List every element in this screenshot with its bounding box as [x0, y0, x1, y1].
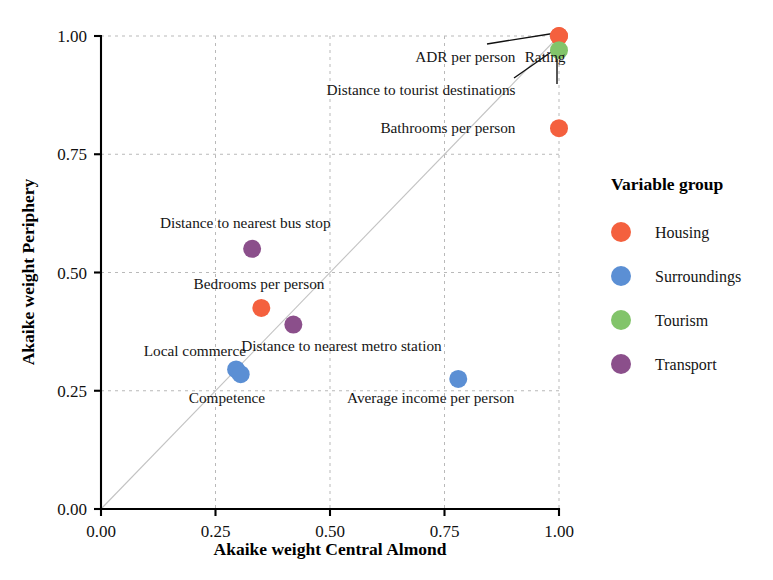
y-tick-label: 1.00	[57, 27, 87, 46]
legend-swatch-housing[interactable]	[611, 222, 631, 242]
legend-swatch-transport[interactable]	[611, 354, 631, 374]
legend-swatch-surroundings[interactable]	[611, 266, 631, 286]
legend: Variable group HousingSurroundingsTouris…	[611, 174, 741, 374]
scatter-plot-figure: 0.000.250.500.751.00 0.000.250.500.751.0…	[0, 0, 773, 580]
data-point-average-income-per-person	[449, 370, 467, 388]
legend-swatch-tourism[interactable]	[611, 310, 631, 330]
point-label-distance-to-nearest-bus-stop: Distance to nearest bus stop	[160, 214, 331, 231]
legend-entries: HousingSurroundingsTourismTransport	[611, 222, 741, 374]
point-label-average-income-per-person: Average income per person	[347, 389, 515, 406]
data-point-bedrooms-per-person	[252, 299, 270, 317]
y-tick-labels: 0.000.250.500.751.00	[57, 27, 87, 519]
data-point-distance-to-nearest-metro-station	[284, 316, 302, 334]
point-label-local-commerce: Local commerce	[144, 342, 247, 359]
data-point-competence	[232, 365, 250, 383]
x-tick-label: 1.00	[544, 522, 574, 541]
y-tick-label: 0.00	[57, 500, 87, 519]
leader-line-adr-per-person	[487, 33, 556, 44]
y-tick-label: 0.50	[57, 264, 87, 283]
point-label-bedrooms-per-person: Bedrooms per person	[194, 275, 325, 292]
legend-label-tourism[interactable]: Tourism	[655, 312, 709, 329]
y-axis-title: Akaike weight Periphery	[18, 178, 38, 365]
plot-canvas: 0.000.250.500.751.00 0.000.250.500.751.0…	[0, 0, 773, 580]
point-label-distance-to-tourist-destinations: Distance to tourist destinations	[326, 81, 515, 98]
point-label-distance-to-nearest-metro-station: Distance to nearest metro station	[241, 337, 442, 354]
point-label-rating: Rating	[525, 48, 566, 65]
y-tick-label: 0.75	[57, 145, 87, 164]
legend-title: Variable group	[611, 174, 724, 194]
legend-label-transport[interactable]: Transport	[655, 356, 717, 374]
legend-label-surroundings[interactable]: Surroundings	[655, 268, 741, 286]
point-label-adr-per-person: ADR per person	[415, 48, 516, 65]
y-tick-label: 0.25	[57, 382, 87, 401]
point-label-bathrooms-per-person: Bathrooms per person	[380, 119, 515, 136]
legend-label-housing[interactable]: Housing	[655, 224, 709, 242]
data-point-distance-to-nearest-bus-stop	[243, 240, 261, 258]
point-labels: ADR per personRatingDistance to tourist …	[144, 48, 566, 406]
data-point-bathrooms-per-person	[550, 119, 568, 137]
x-axis-title: Akaike weight Central Almond	[214, 539, 447, 559]
point-label-competence: Competence	[189, 389, 266, 406]
x-tick-label: 0.00	[86, 522, 116, 541]
